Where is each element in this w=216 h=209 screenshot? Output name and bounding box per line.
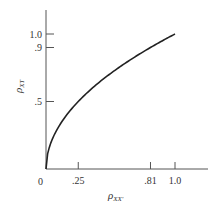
svg-text:ρXT: ρXT <box>12 78 26 94</box>
x-tick-label: 1.0 <box>169 175 182 186</box>
y-tick-label: .5 <box>35 96 43 107</box>
x-axis-label: ρXX' <box>107 189 124 203</box>
y-tick-label: 1.0 <box>30 29 43 40</box>
axes <box>46 10 208 169</box>
chart: .5.91.0 .25.811.0 0 ρXT ρXX' <box>0 0 216 209</box>
y-tick-label: .9 <box>35 42 43 53</box>
y-axis-label: ρXT <box>12 78 26 94</box>
x-ticks: .25.811.0 <box>72 162 181 186</box>
data-curve <box>46 34 175 169</box>
origin-label: 0 <box>38 176 43 187</box>
x-tick-label: .25 <box>72 175 85 186</box>
y-ticks: .5.91.0 <box>30 29 55 108</box>
x-tick-label: .81 <box>144 175 157 186</box>
